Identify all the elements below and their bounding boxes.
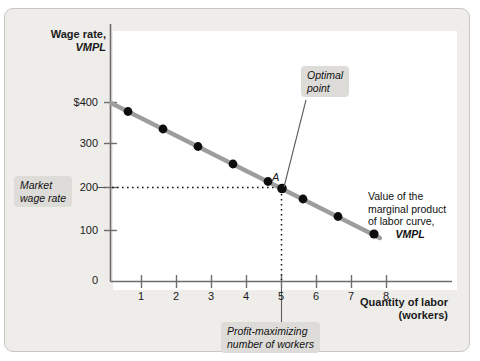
x-tick-label-4: 4 (238, 290, 254, 302)
y-tick-label-400: $400 (58, 96, 98, 108)
optimal-point-callout: Optimal point (301, 66, 349, 97)
x-tick-label-6: 6 (308, 290, 324, 302)
x-tick-label-2: 2 (168, 290, 184, 302)
vmpl-curve-label-line1: Value of the (368, 190, 423, 202)
y-tick-label-100: 100 (58, 224, 98, 236)
y-axis-title-line1: Wage rate, (51, 28, 106, 40)
vmpl-curve-label-vmpl: VMPL (368, 228, 452, 241)
x-tick-label-5: 5 (273, 290, 289, 302)
x-axis-title-line1: Quantity of labor (360, 296, 448, 308)
y-axis-title: Wage rate,VMPL (44, 28, 106, 53)
vmpl-curve-label-line3: of labor curve, (368, 215, 435, 227)
y-tick-label-0: 0 (58, 274, 98, 286)
x-tick-label-1: 1 (133, 290, 149, 302)
market-wage-rate-callout: Market wage rate (14, 176, 72, 207)
y-axis-title-line2: VMPL (44, 41, 106, 54)
optimal-point-leader-line (284, 100, 306, 187)
profit-maximizing-callout: Profit-maximizing number of workers (221, 322, 320, 353)
vmpl-curve-label-line2: marginal product (368, 203, 446, 215)
point-a-label: A (272, 171, 279, 184)
x-tick-label-3: 3 (203, 290, 219, 302)
x-axis-title-line2: (workers) (398, 309, 448, 321)
y-tick-label-300: 300 (58, 137, 98, 149)
vmpl-curve-label: Value of themarginal productof labor cur… (368, 190, 452, 240)
x-tick-label-7: 7 (343, 290, 359, 302)
x-tick-label-8: 8 (378, 290, 394, 302)
